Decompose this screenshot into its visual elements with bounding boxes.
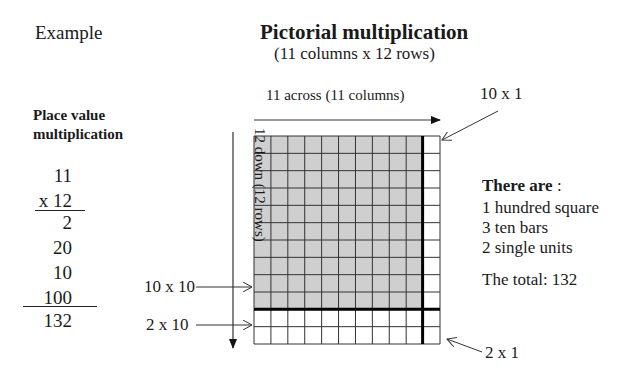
ten-by-one-label: 10 x 1 [480,84,523,104]
two-by-one-label: 2 x 1 [485,343,519,363]
down-label: 12 down (12 rows) [251,128,268,242]
summary-heading-colon: : [553,176,562,195]
two-by-one-arrow [447,339,482,352]
summary-heading: There are : [482,176,562,196]
ten-by-ten-label: 10 x 10 [144,277,195,297]
ten-by-one-arrow [442,111,498,140]
summary-item-hundreds: 1 hundred square [482,198,599,218]
summary-item-units: 2 single units [482,238,573,258]
summary-item-tens: 3 ten bars [482,218,548,238]
across-label: 11 across (11 columns) [266,87,404,104]
summary-total: The total: 132 [482,270,577,290]
summary-heading-bold: There are [482,176,553,195]
two-by-ten-label: 2 x 10 [146,315,189,335]
